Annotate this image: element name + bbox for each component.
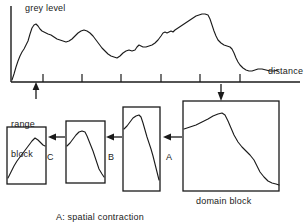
arrow-c-label: C: [47, 152, 54, 162]
grey-level-curve: [12, 14, 278, 80]
arrow-b-label: B: [108, 152, 114, 162]
domain-block-pointer-arrow: [218, 84, 225, 101]
figure-caption: A: spatial contraction: [56, 212, 144, 222]
arrow-a-label: A: [166, 152, 172, 162]
x-axis-ticks: [43, 74, 240, 82]
diagram-canvas: [0, 0, 306, 222]
block-a-profile: [124, 115, 159, 180]
range-block-label-line2: block: [11, 149, 35, 159]
axis-group: [11, 6, 300, 82]
arrow-c: [48, 134, 65, 141]
block-b-profile: [67, 131, 104, 177]
figure-container: grey level distance range block domain b…: [0, 0, 306, 222]
block-b: [66, 121, 105, 183]
y-axis-label: grey level: [25, 3, 66, 13]
x-axis-label: distance: [268, 66, 303, 76]
domain-block: [183, 101, 279, 191]
domain-block-label: domain block: [196, 196, 251, 206]
domain-block-profile: [184, 113, 279, 185]
arrow-b: [106, 134, 122, 141]
range-block-pointer-arrow: [33, 82, 40, 99]
range-block-label-line1: range: [11, 119, 35, 129]
range-block-label: range block: [11, 99, 35, 179]
arrow-a: [163, 134, 182, 141]
block-a: [123, 107, 160, 191]
